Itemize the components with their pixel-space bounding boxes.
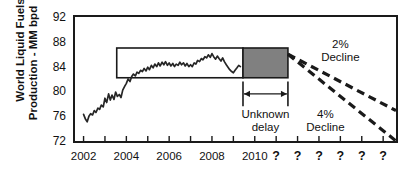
- chart-figure: World Liquid Fuels Production - MM bpd 7…: [0, 0, 419, 170]
- plot-area: 2% Decline 4% Decline Unknown delay: [73, 15, 398, 143]
- y-tick-label-72: 72: [40, 135, 66, 147]
- y-tick-label-80: 80: [40, 85, 66, 97]
- x-unknown-mark-2: ?: [291, 150, 305, 162]
- x-tick-label-2008: 2008: [195, 150, 229, 162]
- y-tick-label-76: 76: [40, 110, 66, 122]
- unknown-delay-label-line2: delay: [227, 121, 303, 134]
- x-axis-ticks: [84, 136, 384, 141]
- decline-4-percent-label-line1: 4%: [295, 108, 355, 121]
- x-unknown-mark-1: ?: [269, 150, 283, 162]
- x-tick-label-2004: 2004: [109, 150, 143, 162]
- unknown-delay-arrowhead-right: [281, 91, 287, 97]
- x-unknown-mark-5: ?: [355, 150, 369, 162]
- undulating-plateau-box: [243, 48, 288, 78]
- x-unknown-mark-4: ?: [333, 150, 347, 162]
- unknown-delay-arrowhead-left: [244, 91, 250, 97]
- decline-4-percent-label-line2: Decline: [295, 121, 355, 134]
- decline-2-percent-label-line1: 2%: [310, 38, 370, 51]
- y-tick-label-92: 92: [40, 11, 66, 23]
- x-tick-label-2010: 2010: [238, 150, 272, 162]
- y-tick-label-84: 84: [40, 61, 66, 73]
- unknown-delay-label-line1: Unknown: [227, 108, 303, 121]
- x-unknown-mark-3: ?: [312, 150, 326, 162]
- x-tick-label-2002: 2002: [67, 150, 101, 162]
- x-unknown-mark-6: ?: [376, 150, 390, 162]
- x-tick-label-2006: 2006: [152, 150, 186, 162]
- y-tick-label-88: 88: [40, 36, 66, 48]
- decline-2-percent-label-line2: Decline: [310, 51, 370, 64]
